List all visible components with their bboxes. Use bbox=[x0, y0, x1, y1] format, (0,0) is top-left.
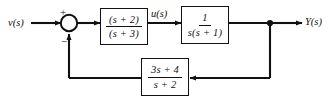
forward-block-1: (s + 2) (s + 3) bbox=[100, 8, 148, 45]
output-signal-label: Y(s) bbox=[305, 16, 322, 27]
takeoff-node bbox=[267, 20, 273, 26]
transfer-function-feedback: 3s + 4 s + 2 bbox=[148, 64, 182, 90]
denominator: s(s + 1) bbox=[185, 26, 225, 38]
transfer-function-2: 1 s(s + 1) bbox=[185, 12, 225, 38]
block-diagram: (s + 2) (s + 3) 1 s(s + 1) 3s + 4 s + 2 … bbox=[0, 0, 335, 100]
denominator: (s + 3) bbox=[106, 27, 142, 39]
forward-block-2: 1 s(s + 1) bbox=[181, 6, 229, 44]
minus-sign: − bbox=[61, 36, 67, 47]
plus-sign: + bbox=[60, 7, 66, 18]
transfer-function-1: (s + 2) (s + 3) bbox=[106, 14, 142, 40]
feedback-block: 3s + 4 s + 2 bbox=[141, 58, 189, 96]
intermediate-signal-label: u(s) bbox=[151, 8, 167, 19]
denominator: s + 2 bbox=[151, 78, 180, 90]
numerator: 1 bbox=[199, 12, 210, 25]
numerator: (s + 2) bbox=[106, 14, 142, 27]
numerator: 3s + 4 bbox=[148, 64, 182, 77]
input-signal-label: v(s) bbox=[8, 17, 24, 28]
